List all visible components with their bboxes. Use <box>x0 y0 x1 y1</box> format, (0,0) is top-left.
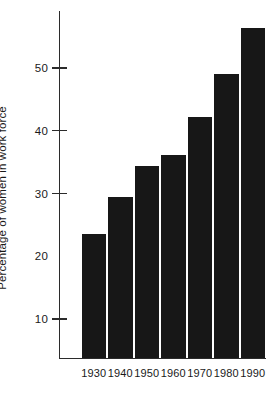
bars-layer <box>0 0 270 396</box>
bar-1940 <box>108 197 133 357</box>
bar-chart: Percentage of women in work force 504030… <box>0 0 270 396</box>
bar-1930 <box>82 234 107 357</box>
bar-1990 <box>241 28 266 357</box>
bar-1970 <box>188 117 213 358</box>
x-tick-label-1990: 1990 <box>235 367 270 379</box>
bar-1950 <box>135 166 160 358</box>
bar-1960 <box>161 155 186 357</box>
bar-1980 <box>214 74 239 358</box>
